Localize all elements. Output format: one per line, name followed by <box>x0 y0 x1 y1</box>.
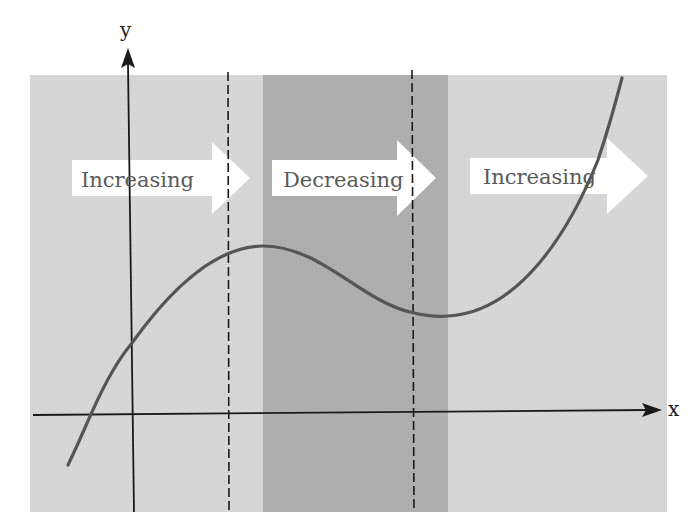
texture-overlay <box>30 75 667 512</box>
x-axis-label: x <box>668 397 680 421</box>
region-label-decreasing: Decreasing <box>283 168 403 192</box>
diagram-canvas: Increasing Decreasing Increasing y x <box>0 0 700 529</box>
y-axis-label: y <box>119 18 132 42</box>
region-label-increasing-right: Increasing <box>483 165 596 189</box>
regions <box>30 75 667 512</box>
region-label-increasing-left: Increasing <box>81 168 194 192</box>
